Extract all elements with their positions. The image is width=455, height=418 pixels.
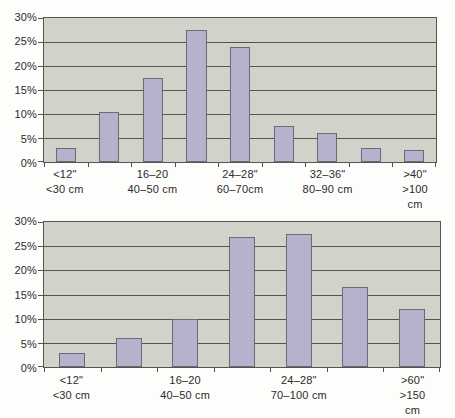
y-axis-tick-label: 10%: [0, 109, 37, 120]
bar: [286, 234, 312, 367]
y-axis-tick-mark: [38, 319, 43, 320]
y-axis-tick-mark: [38, 295, 43, 296]
bar-slot: [383, 222, 440, 367]
y-axis-tick-label: 20%: [0, 60, 37, 71]
bar-slot: [218, 18, 262, 162]
y-axis-tick-mark: [38, 90, 43, 91]
x-category-label: >60" >150 cm: [398, 373, 426, 418]
y-axis-tick-mark: [38, 66, 43, 67]
bar: [361, 148, 381, 162]
upper-histogram: 30%25%20%15%10%5%0% <12" <30 cm16–20 40–…: [0, 0, 455, 204]
y-axis-tick-mark: [38, 161, 43, 162]
y-axis-tick-label: 30%: [0, 216, 37, 227]
x-axis-tick-mark: [157, 368, 158, 372]
upper-y-axis-labels: 30%25%20%15%10%5%0%: [0, 17, 37, 163]
y-axis-tick-mark: [38, 18, 43, 19]
bar-slot: [131, 18, 175, 162]
bar: [399, 309, 425, 367]
bar: [143, 78, 163, 162]
y-axis-tick-label: 10%: [0, 314, 37, 325]
bar: [342, 287, 368, 367]
y-axis-tick-mark: [38, 138, 43, 139]
y-axis-tick-mark: [38, 270, 43, 271]
x-axis-tick-mark: [270, 368, 271, 372]
bar-slot: [393, 18, 437, 162]
bar-slot: [327, 222, 384, 367]
bar-slot: [270, 222, 327, 367]
y-axis-tick-label: 25%: [0, 240, 37, 251]
bar-slot: [157, 222, 214, 367]
y-axis-tick-label: 5%: [0, 338, 37, 349]
bar-slot: [101, 222, 158, 367]
y-axis-tick-label: 30%: [0, 12, 37, 23]
y-axis-tick-mark: [38, 246, 43, 247]
bar-slots: [44, 18, 436, 162]
x-category-label: 32–36" 80–90 cm: [303, 167, 353, 197]
bar: [317, 133, 337, 162]
y-axis-tick-mark: [38, 222, 43, 223]
bar-slot: [88, 18, 132, 162]
bar: [274, 126, 294, 162]
bar-slot: [305, 18, 349, 162]
x-axis-tick-mark: [214, 368, 215, 372]
x-axis-tick-mark: [439, 368, 440, 372]
bar-slot: [349, 18, 393, 162]
lower-y-axis-labels: 30%25%20%15%10%5%0%: [0, 221, 37, 368]
upper-plot-area: [43, 17, 437, 163]
bar: [56, 148, 76, 162]
x-category-label: 16–20 40–50 cm: [127, 167, 177, 197]
bar: [230, 47, 250, 162]
y-axis-tick-label: 15%: [0, 289, 37, 300]
x-axis-tick-mark: [44, 368, 45, 372]
bar: [59, 353, 85, 368]
lower-histogram: 30%25%20%15%10%5%0% <12" <30 cm16–20 40–…: [0, 204, 455, 409]
x-category-label: <12" <30 cm: [46, 167, 84, 197]
bar-slot: [44, 18, 88, 162]
y-axis-tick-label: 0%: [0, 363, 37, 374]
y-axis-tick-mark: [38, 114, 43, 115]
x-axis-tick-mark: [101, 368, 102, 372]
y-axis-tick-label: 5%: [0, 133, 37, 144]
bar-slot: [214, 222, 271, 367]
upper-x-axis-labels: <12" <30 cm16–20 40–50 cm24–28" 60–70cm3…: [43, 167, 437, 201]
y-axis-tick-label: 25%: [0, 36, 37, 47]
lower-plot-area: [43, 221, 441, 368]
bar: [116, 338, 142, 367]
y-axis-tick-mark: [38, 42, 43, 43]
bar: [404, 150, 424, 162]
bar: [229, 237, 255, 368]
bar-slot: [44, 222, 101, 367]
y-axis-tick-mark: [38, 366, 43, 367]
lower-x-axis-labels: <12" <30 cm16–20 40–50 cm24–28" 70–100 c…: [43, 373, 441, 407]
x-category-label: 24–28" 70–100 cm: [271, 373, 327, 403]
bar: [186, 30, 206, 162]
x-axis-tick-mark: [327, 368, 328, 372]
y-axis-tick-mark: [38, 343, 43, 344]
x-category-label: <12" <30 cm: [53, 373, 91, 403]
bar: [172, 319, 198, 367]
bar-slots: [44, 222, 440, 367]
bar-slot: [262, 18, 306, 162]
bar-slot: [175, 18, 219, 162]
bar: [99, 112, 119, 162]
x-axis-tick-mark: [383, 368, 384, 372]
x-category-label: 16–20 40–50 cm: [160, 373, 210, 403]
y-axis-tick-label: 20%: [0, 265, 37, 276]
y-axis-tick-label: 0%: [0, 158, 37, 169]
y-axis-tick-label: 15%: [0, 85, 37, 96]
x-category-label: 24–28" 60–70cm: [217, 167, 264, 197]
